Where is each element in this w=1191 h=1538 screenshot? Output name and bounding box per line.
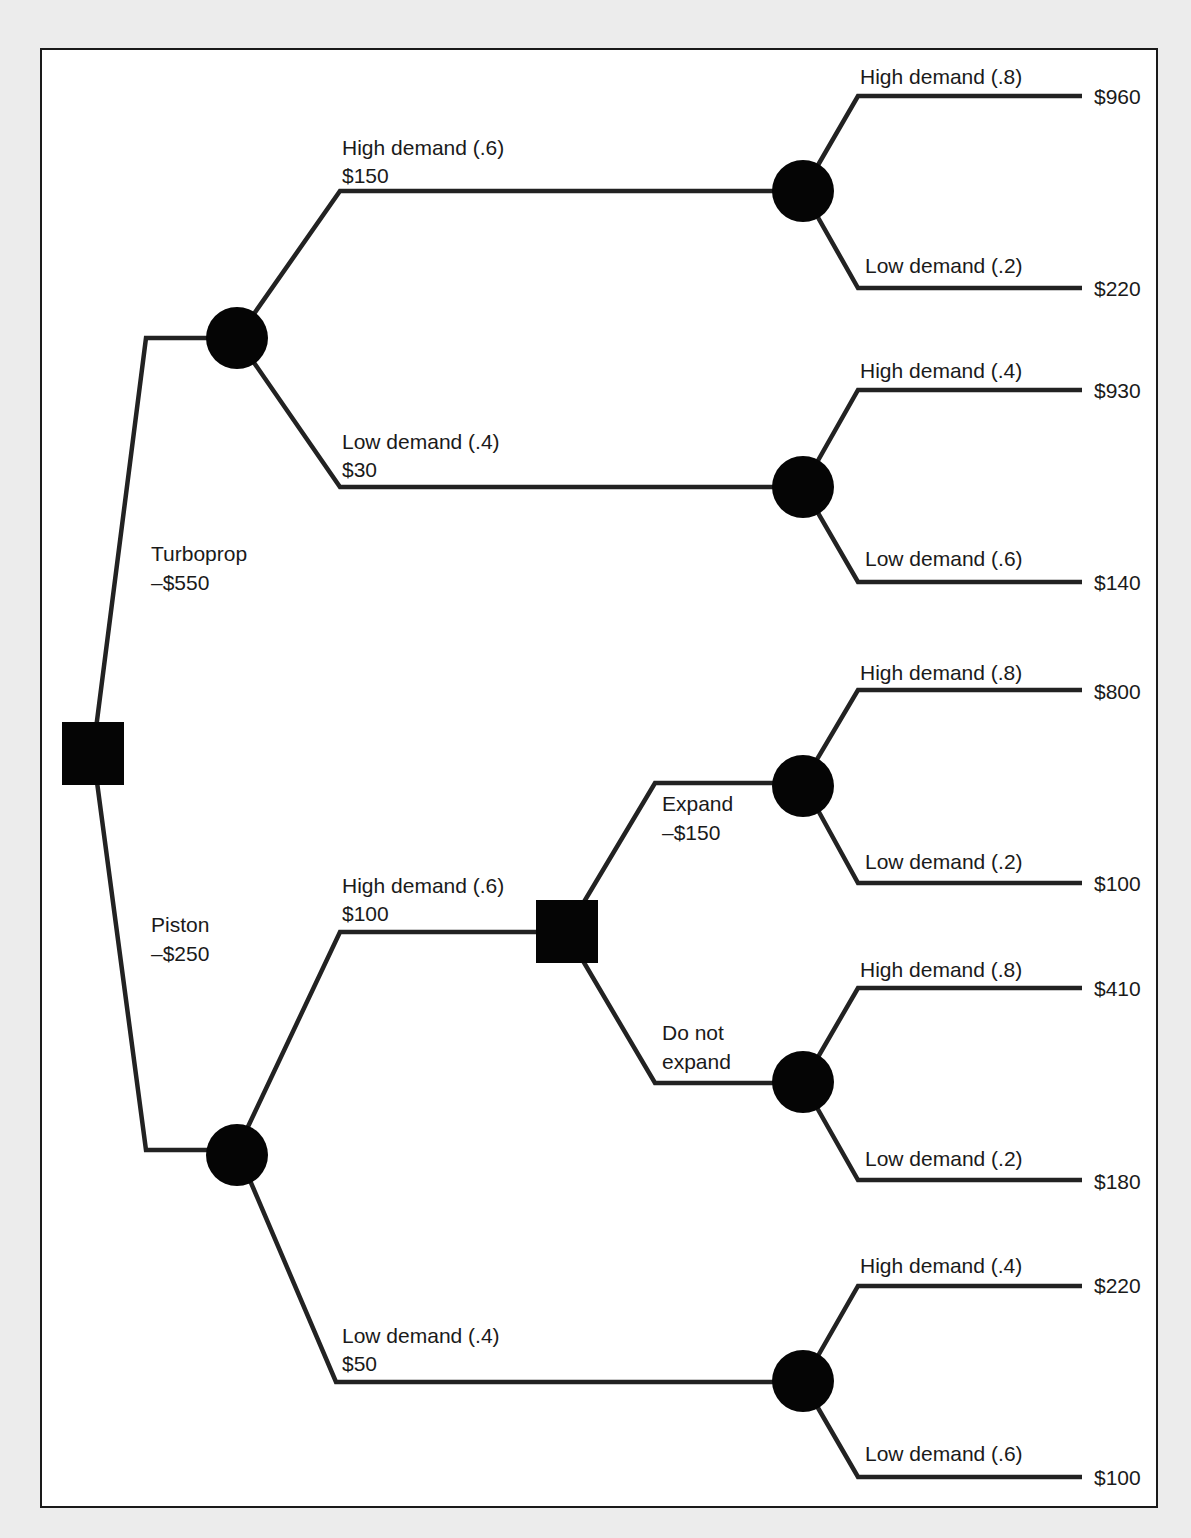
branch-label-turbo-high: High demand (.6)	[342, 136, 504, 159]
payoff-e-low: $100	[1094, 1466, 1141, 1489]
chance-node-turboprop	[206, 307, 268, 369]
chance-node-e	[772, 1350, 834, 1412]
chance-node-b	[772, 456, 834, 518]
branch-value-piston-high: $100	[342, 902, 389, 925]
edge-piston-high	[237, 932, 566, 1150]
branch-value-turbo-low: $30	[342, 458, 377, 481]
payoff-c-high: $800	[1094, 680, 1141, 703]
payoff-a-low: $220	[1094, 277, 1141, 300]
branch-label-e-low: Low demand (.6)	[865, 1442, 1023, 1465]
edge-piston-low	[237, 1150, 803, 1382]
payoff-b-high: $930	[1094, 379, 1141, 402]
edge-turbo-high	[237, 191, 803, 338]
branch-cost-expand: –$150	[662, 821, 720, 844]
branch-label-e-high: High demand (.4)	[860, 1254, 1022, 1277]
branch-label-piston-low: Low demand (.4)	[342, 1324, 500, 1347]
branch-value-turbo-high: $150	[342, 164, 389, 187]
branch-cost-piston: –$250	[151, 942, 209, 965]
branch-label-do-not-expand-2: expand	[662, 1050, 731, 1073]
chance-node-d	[772, 1051, 834, 1113]
branch-label-b-low: Low demand (.6)	[865, 547, 1023, 570]
edge-d-high	[803, 988, 1082, 1083]
edge-c-high	[803, 690, 1082, 783]
chance-node-c	[772, 755, 834, 817]
branch-label-expand: Expand	[662, 792, 733, 815]
payoff-e-high: $220	[1094, 1274, 1141, 1297]
branch-label-do-not-expand-1: Do not	[662, 1021, 724, 1044]
branch-label-a-low: Low demand (.2)	[865, 254, 1023, 277]
payoff-d-high: $410	[1094, 977, 1141, 1000]
payoff-b-low: $140	[1094, 571, 1141, 594]
branch-label-piston-high: High demand (.6)	[342, 874, 504, 897]
branch-value-piston-low: $50	[342, 1352, 377, 1375]
branch-label-turbo-low: Low demand (.4)	[342, 430, 500, 453]
payoff-d-low: $180	[1094, 1170, 1141, 1193]
branch-label-d-high: High demand (.8)	[860, 958, 1022, 981]
branch-label-d-low: Low demand (.2)	[865, 1147, 1023, 1170]
decision-node-expand	[536, 900, 598, 963]
payoff-c-low: $100	[1094, 872, 1141, 895]
edge-a-high	[803, 96, 1082, 191]
branch-label-c-high: High demand (.8)	[860, 661, 1022, 684]
chance-node-piston	[206, 1124, 268, 1186]
edge-e-high	[803, 1286, 1082, 1382]
edge-turbo-low	[237, 338, 803, 487]
chance-node-a	[772, 160, 834, 222]
branch-label-b-high: High demand (.4)	[860, 359, 1022, 382]
edge-b-high	[803, 390, 1082, 487]
payoff-a-high: $960	[1094, 85, 1141, 108]
branch-label-a-high: High demand (.8)	[860, 65, 1022, 88]
branch-cost-turboprop: –$550	[151, 571, 209, 594]
branch-label-piston: Piston	[151, 913, 209, 936]
branch-label-turboprop: Turboprop	[151, 542, 247, 565]
decision-tree: Turboprop –$550 Piston –$250 High demand…	[0, 0, 1191, 1538]
branch-label-c-low: Low demand (.2)	[865, 850, 1023, 873]
decision-node-root	[62, 722, 124, 785]
